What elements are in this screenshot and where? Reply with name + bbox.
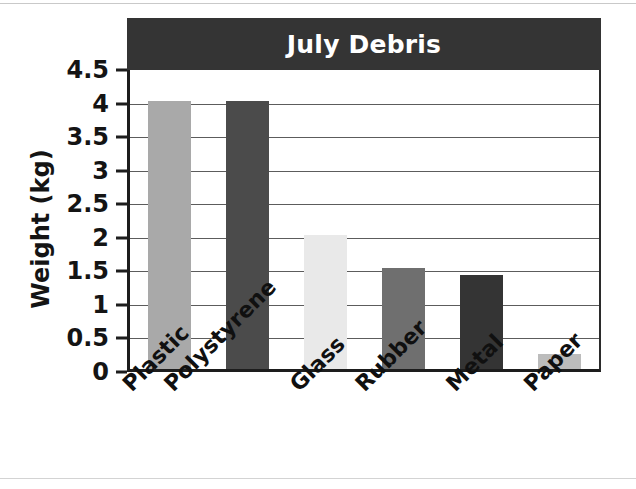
y-tick-label: 3.5 [66, 125, 109, 149]
y-tick-mark [116, 236, 127, 239]
y-tick-mark [116, 270, 127, 273]
chart-title: July Debris [287, 32, 441, 57]
y-tick-label: 4.5 [66, 58, 109, 82]
bar-slot [443, 70, 521, 369]
page-top-border [0, 3, 636, 4]
y-tick-label: 4 [92, 92, 109, 116]
y-axis-title: Weight (kg) [18, 134, 64, 324]
x-label-slot: Paper [522, 376, 601, 486]
y-tick-mark [116, 169, 127, 172]
y-tick-mark [116, 102, 127, 105]
y-tick-mark [116, 203, 127, 206]
plot-area [127, 70, 601, 372]
x-label-slot: Metal [443, 376, 522, 486]
x-label-slot: Rubber [364, 376, 443, 486]
chart-figure: July Debris 4.543.532.521.510.50 Weight … [0, 0, 636, 489]
y-tick-mark [116, 69, 127, 72]
chart-title-banner: July Debris [127, 18, 601, 70]
x-label-slot: Polystyrene [206, 376, 285, 486]
bars-layer [130, 70, 599, 369]
y-tick-label: 3 [92, 159, 109, 183]
y-tick-label: 1.5 [66, 259, 109, 283]
y-tick-label: 0 [92, 360, 109, 384]
bar-slot [286, 70, 364, 369]
x-label-slot: Plastic [127, 376, 206, 486]
bar-slot [521, 70, 599, 369]
y-tick-mark [116, 303, 127, 306]
y-tick-mark [116, 337, 127, 340]
bar-slot [130, 70, 208, 369]
x-axis-labels: PlasticPolystyreneGlassRubberMetalPaper [127, 376, 601, 486]
y-tick-label: 1 [92, 293, 109, 317]
y-axis-title-text: Weight (kg) [29, 149, 53, 308]
y-tick-label: 0.5 [66, 326, 109, 350]
y-tick-label: 2 [92, 226, 109, 250]
x-label-slot: Glass [285, 376, 364, 486]
y-tick-mark [116, 136, 127, 139]
y-tick-label: 2.5 [66, 192, 109, 216]
